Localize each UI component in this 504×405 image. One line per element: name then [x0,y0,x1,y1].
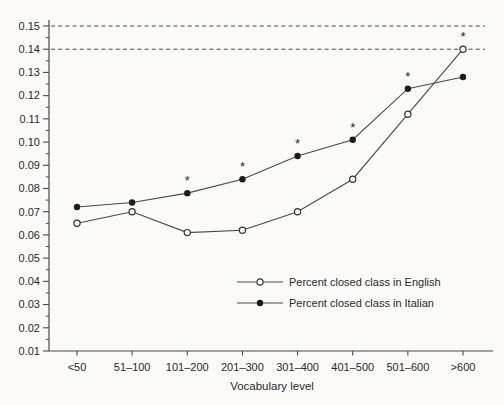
y-tick-label-0.06: 0.06 [19,229,40,241]
y-tick-label-0.09: 0.09 [19,159,40,171]
data-point-italian-401–500 [350,137,356,143]
legend-label-italian: Percent closed class in Italian [289,297,434,309]
significance-asterisk-301–400: * [295,136,300,151]
data-point-english-201–300 [239,227,245,233]
data-point-english-401–500 [350,176,356,182]
data-point-english-51–100 [129,209,135,215]
x-tick-label-<50: <50 [68,361,87,373]
x-tick-label-301–400: 301–400 [276,361,319,373]
y-tick-label-0.12: 0.12 [19,89,40,101]
data-point-english-501–600 [405,111,411,117]
closed-class-line-chart-figure: 0.150.140.130.120.110.100.090.080.070.06… [0,0,504,405]
data-point-english-101–200 [184,230,190,236]
x-axis-title: Vocabulary level [230,380,314,392]
legend-entry-italian: Percent closed class in Italian [237,292,441,313]
data-point-italian-101–200 [184,190,190,196]
y-tick-label-0.10: 0.10 [19,136,40,148]
chart-legend: Percent closed class in English Percent … [237,271,441,313]
series-line-italian [77,77,463,207]
data-point-italian-<50 [74,204,80,210]
significance-asterisk->600: * [460,29,465,44]
x-tick-label-51–100: 51–100 [114,361,151,373]
y-tick-label-0.03: 0.03 [19,298,40,310]
data-point-english-301–400 [294,209,300,215]
x-tick-label->600: >600 [451,361,476,373]
data-point-english-<50 [74,220,80,226]
significance-asterisk-501–600: * [405,69,410,84]
filled-circle-marker-icon [237,298,283,308]
data-point-english->600 [460,46,466,52]
x-tick-label-201–300: 201–300 [221,361,264,373]
chart-canvas: 0.150.140.130.120.110.100.090.080.070.06… [0,0,504,405]
legend-entry-english: Percent closed class in English [237,271,441,292]
y-tick-label-0.01: 0.01 [19,345,40,357]
legend-filled-circle [257,299,263,305]
y-tick-label-0.07: 0.07 [19,206,40,218]
significance-asterisk-101–200: * [185,173,190,188]
y-tick-label-0.02: 0.02 [19,322,40,334]
y-tick-label-0.15: 0.15 [19,20,40,32]
significance-asterisk-201–300: * [240,159,245,174]
x-tick-label-101–200: 101–200 [166,361,209,373]
data-point-italian-201–300 [239,176,245,182]
y-tick-label-0.04: 0.04 [19,275,40,287]
data-point-italian-51–100 [129,199,135,205]
y-tick-label-0.08: 0.08 [19,182,40,194]
y-tick-label-0.13: 0.13 [19,66,40,78]
data-point-italian->600 [460,74,466,80]
legend-label-english: Percent closed class in English [289,276,441,288]
y-tick-label-0.11: 0.11 [19,113,40,125]
data-point-italian-501–600 [405,85,411,91]
y-tick-label-0.05: 0.05 [19,252,40,264]
x-tick-label-401–500: 401–500 [331,361,374,373]
significance-asterisk-401–500: * [350,120,355,135]
open-circle-marker-icon [237,277,283,287]
data-point-italian-301–400 [294,153,300,159]
y-tick-label-0.14: 0.14 [19,43,40,55]
legend-open-circle [257,278,263,284]
x-tick-label-501–600: 501–600 [386,361,429,373]
